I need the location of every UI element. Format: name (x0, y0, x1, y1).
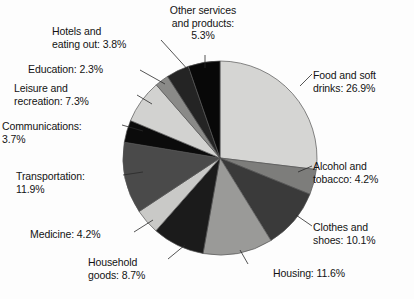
pie-label-other-services-and-products: Other services and products: 5.3% (148, 4, 258, 42)
pie-label-education: Education: 2.3% (28, 63, 141, 76)
pie-label-transportation: Transportation: 11.9% (16, 170, 124, 195)
leader-line-clothes (296, 215, 312, 226)
pie-label-leisure-and-recreation: Leisure and recreation: 7.3% (14, 82, 138, 107)
pie-label-medicine: Medicine: 4.2% (30, 228, 134, 241)
pie-slice-group (123, 61, 317, 255)
pie-slice-food (220, 61, 317, 170)
pie-label-communications: Communications: 3.7% (2, 120, 124, 145)
pie-label-alcohol-and-tobacco: Alcohol and tobacco: 4.2% (313, 160, 413, 185)
leader-line-hotels (161, 40, 190, 72)
pie-label-food-and-soft-drinks: Food and soft drinks: 26.9% (313, 69, 413, 94)
leader-line-education (140, 70, 165, 84)
leader-line-medicine (134, 220, 153, 232)
leader-line-food (300, 74, 312, 86)
pie-label-clothes-and-shoes: Clothes and shoes: 10.1% (313, 221, 413, 246)
pie-label-household-goods: Household goods: 8.7% (88, 256, 188, 281)
pie-label-housing: Housing: 11.6% (235, 267, 345, 280)
pie-chart-figure: Other services and products: 5.3% Hotels… (0, 0, 414, 299)
pie-label-hotels-and-eating-out: Hotels and eating out: 3.8% (52, 25, 162, 50)
